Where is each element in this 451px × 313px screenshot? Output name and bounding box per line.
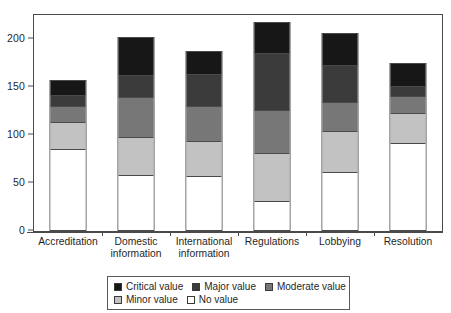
legend-item-no-value[interactable]: No value bbox=[187, 294, 238, 305]
bar-segment-moderate[interactable] bbox=[391, 96, 426, 113]
y-axis-tick-mark bbox=[28, 230, 33, 231]
y-axis-tick-label: 50 bbox=[13, 176, 25, 188]
bar-segment-moderate[interactable] bbox=[51, 106, 86, 122]
bar-segment-critical[interactable] bbox=[51, 81, 86, 95]
legend-item-major-value[interactable]: Major value bbox=[192, 281, 256, 292]
y-axis: 050100150200 bbox=[0, 14, 33, 232]
legend-swatch-icon bbox=[192, 283, 200, 291]
bar-accreditation[interactable] bbox=[50, 80, 87, 231]
x-axis-label: Resolution bbox=[374, 236, 442, 248]
bar-international-information[interactable] bbox=[186, 51, 223, 231]
x-axis-label: Lobbying bbox=[306, 236, 374, 248]
y-axis-tick-mark bbox=[28, 86, 33, 87]
bar-segment-moderate[interactable] bbox=[187, 106, 222, 141]
bar-slot bbox=[374, 15, 442, 231]
bar-segment-moderate[interactable] bbox=[323, 102, 358, 131]
bars-area bbox=[34, 15, 442, 231]
bar-segment-no[interactable] bbox=[323, 172, 358, 230]
x-axis-label: Accreditation bbox=[34, 236, 102, 248]
bar-slot bbox=[102, 15, 170, 231]
bar-segment-no[interactable] bbox=[119, 175, 154, 230]
y-axis-tick-label: 200 bbox=[7, 32, 25, 44]
bar-slot bbox=[238, 15, 306, 231]
bar-segment-critical[interactable] bbox=[119, 38, 154, 75]
bar-segment-critical[interactable] bbox=[391, 64, 426, 86]
x-axis-tick-mark bbox=[170, 232, 171, 236]
y-axis-tick-mark bbox=[28, 182, 33, 183]
bar-segment-minor[interactable] bbox=[255, 153, 290, 201]
y-axis-tick-label: 150 bbox=[7, 80, 25, 92]
x-axis-label: Regulations bbox=[238, 236, 306, 248]
bar-segment-major[interactable] bbox=[119, 75, 154, 97]
x-axis-tick-mark bbox=[374, 232, 375, 236]
bar-regulations[interactable] bbox=[254, 22, 291, 231]
legend-label: Major value bbox=[204, 281, 256, 292]
x-axis: AccreditationDomesticinformationInternat… bbox=[34, 236, 442, 266]
legend-label: Critical value bbox=[126, 281, 183, 292]
legend-swatch-icon bbox=[114, 283, 122, 291]
bar-segment-major[interactable] bbox=[187, 74, 222, 105]
x-axis-tick-mark bbox=[238, 232, 239, 236]
legend-item-moderate-value[interactable]: Moderate value bbox=[265, 281, 346, 292]
legend-row: Critical valueMajor valueModerate value bbox=[114, 280, 344, 293]
legend-row: Minor valueNo value bbox=[114, 293, 344, 306]
y-axis-tick-mark bbox=[28, 134, 33, 135]
bar-segment-major[interactable] bbox=[391, 86, 426, 96]
legend-swatch-icon bbox=[187, 296, 195, 304]
bar-segment-major[interactable] bbox=[255, 53, 290, 110]
y-axis-tick-label: 0 bbox=[19, 224, 25, 236]
bar-resolution[interactable] bbox=[390, 63, 427, 231]
bar-segment-critical[interactable] bbox=[323, 34, 358, 64]
bar-segment-major[interactable] bbox=[51, 95, 86, 105]
bar-segment-minor[interactable] bbox=[119, 137, 154, 175]
bar-segment-no[interactable] bbox=[391, 143, 426, 230]
x-axis-tick-mark bbox=[306, 232, 307, 236]
x-axis-label: Domesticinformation bbox=[102, 236, 170, 260]
x-axis-tick-mark bbox=[102, 232, 103, 236]
bar-segment-major[interactable] bbox=[323, 65, 358, 102]
bar-segment-moderate[interactable] bbox=[255, 110, 290, 153]
bar-slot bbox=[306, 15, 374, 231]
bar-slot bbox=[170, 15, 238, 231]
legend-label: Minor value bbox=[126, 294, 178, 305]
y-axis-tick-label: 100 bbox=[7, 128, 25, 140]
stacked-bar-chart: 050100150200 AccreditationDomesticinform… bbox=[0, 0, 451, 313]
bar-slot bbox=[34, 15, 102, 231]
y-axis-tick-mark bbox=[28, 38, 33, 39]
bar-segment-no[interactable] bbox=[255, 201, 290, 230]
legend-item-critical-value[interactable]: Critical value bbox=[114, 281, 183, 292]
legend-label: Moderate value bbox=[277, 281, 346, 292]
bar-segment-minor[interactable] bbox=[323, 131, 358, 172]
bar-segment-moderate[interactable] bbox=[119, 97, 154, 137]
chart-legend: Critical valueMajor valueModerate valueM… bbox=[107, 276, 350, 310]
bar-segment-minor[interactable] bbox=[187, 141, 222, 176]
bar-domestic-information[interactable] bbox=[118, 37, 155, 231]
bar-segment-no[interactable] bbox=[51, 149, 86, 230]
bar-segment-minor[interactable] bbox=[51, 122, 86, 149]
x-axis-label: Internationalinformation bbox=[170, 236, 238, 260]
x-axis-line bbox=[27, 232, 443, 233]
bar-segment-no[interactable] bbox=[187, 176, 222, 230]
legend-item-minor-value[interactable]: Minor value bbox=[114, 294, 178, 305]
legend-label: No value bbox=[199, 294, 238, 305]
bar-lobbying[interactable] bbox=[322, 33, 359, 231]
legend-swatch-icon bbox=[265, 283, 273, 291]
bar-segment-critical[interactable] bbox=[255, 23, 290, 53]
bar-segment-minor[interactable] bbox=[391, 113, 426, 142]
bar-segment-critical[interactable] bbox=[187, 52, 222, 75]
legend-swatch-icon bbox=[114, 296, 122, 304]
